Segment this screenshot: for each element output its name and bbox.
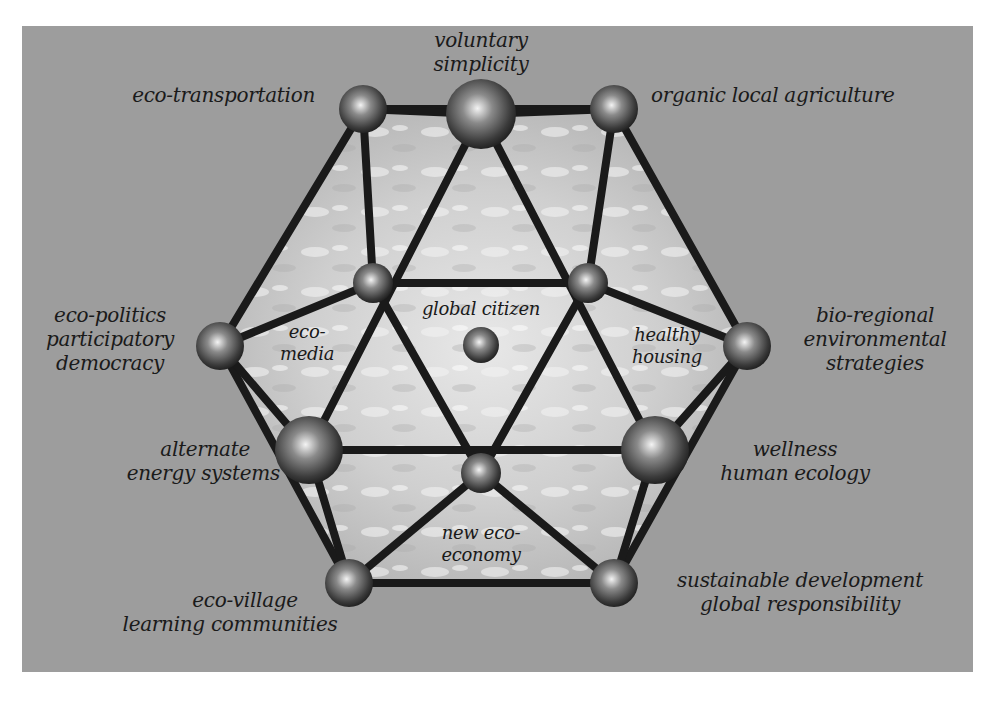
node-healthy-housing [568, 263, 608, 303]
label-line: sustainable development [640, 568, 960, 592]
label-line: voluntary [400, 28, 562, 52]
node-eco-transportation [339, 85, 387, 133]
label-organic-local-agriculture: organic local agriculture [651, 83, 931, 107]
node-voluntary-simplicity [446, 79, 516, 149]
label-healthy-housing: healthy housing [612, 324, 722, 368]
label-eco-transportation: eco-transportation [95, 83, 315, 107]
node-alternate-energy [275, 416, 343, 484]
label-eco-media: eco- media [262, 321, 352, 365]
label-line: housing [612, 346, 722, 368]
label-global-citizen: global citizen [400, 298, 562, 320]
node-wellness [621, 416, 689, 484]
label-line: eco- [262, 321, 352, 343]
node-eco-politics [196, 322, 244, 370]
label-line: economy [421, 544, 541, 566]
label-line: eco-village [100, 588, 360, 612]
label-line: healthy [612, 324, 722, 346]
label-bio-regional: bio-regional environmental strategies [775, 303, 975, 375]
label-line: environmental [775, 327, 975, 351]
label-line: new eco- [421, 522, 541, 544]
label-eco-village: eco-village learning communities [100, 588, 360, 636]
label-line: simplicity [400, 52, 562, 76]
node-global-citizen [463, 327, 499, 363]
label-line: bio-regional [775, 303, 975, 327]
label-line: democracy [20, 351, 200, 375]
label-eco-politics: eco-politics participatory democracy [20, 303, 200, 375]
label-line: alternate [80, 437, 280, 461]
label-line: human ecology [690, 461, 900, 485]
label-line: energy systems [80, 461, 280, 485]
label-text: organic local agriculture [651, 83, 894, 107]
label-new-eco-economy: new eco- economy [421, 522, 541, 566]
label-text: global citizen [422, 298, 540, 319]
node-bio-regional [723, 322, 771, 370]
label-sustainable-development: sustainable development global responsib… [640, 568, 960, 616]
label-line: global responsibility [640, 592, 960, 616]
label-alternate-energy: alternate energy systems [80, 437, 280, 485]
label-line: strategies [775, 351, 975, 375]
label-wellness: wellness human ecology [690, 437, 900, 485]
node-organic-local-agriculture [590, 85, 638, 133]
node-new-eco-economy [461, 453, 501, 493]
node-sustainable-development [590, 559, 638, 607]
label-line: wellness [690, 437, 900, 461]
label-line: learning communities [100, 612, 360, 636]
label-line: participatory [20, 327, 200, 351]
label-line: eco-politics [20, 303, 200, 327]
label-line: media [262, 343, 352, 365]
label-text: eco-transportation [132, 83, 315, 107]
node-eco-media [353, 263, 393, 303]
label-voluntary-simplicity: voluntary simplicity [400, 28, 562, 76]
